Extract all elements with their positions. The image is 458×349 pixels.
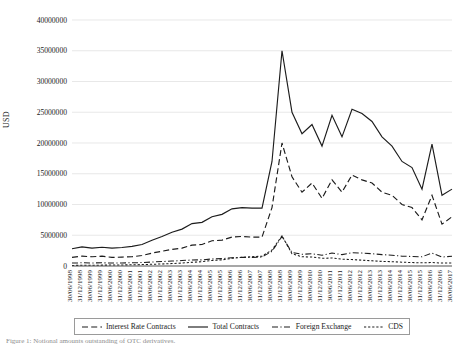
x-tick-label: 30/06/2005 xyxy=(206,270,214,302)
x-tick-label: 30/06/2016 xyxy=(426,270,434,302)
x-tick-label: 31/12/2013 xyxy=(376,270,384,302)
legend-label: CDS xyxy=(388,322,403,331)
x-tick-label: 30/06/2009 xyxy=(286,270,294,302)
x-tick-label: 31/12/2009 xyxy=(296,270,304,302)
x-tick-label: 31/12/2002 xyxy=(156,270,164,302)
chart-legend: Interest Rate ContractsTotal ContractsFo… xyxy=(74,318,410,335)
chart-plot-area: 0500000010000000150000002000000025000000… xyxy=(0,0,458,349)
x-tick-label: 31/12/2006 xyxy=(236,270,244,302)
gridlines-group xyxy=(72,20,452,266)
y-tick-label: 20000000 xyxy=(37,139,68,148)
x-tick-label: 30/06/1998 xyxy=(66,270,74,302)
figure-container: USD 050000001000000015000000200000002500… xyxy=(0,0,458,349)
x-tick-label: 31/12/2015 xyxy=(416,270,424,302)
x-tick-label: 31/12/2012 xyxy=(356,270,364,302)
y-tick-label: 15000000 xyxy=(37,169,68,178)
series-line-total-contracts xyxy=(72,51,452,249)
x-tick-label: 31/12/2003 xyxy=(176,270,184,302)
y-tick-label: 40000000 xyxy=(37,16,68,25)
x-tick-label: 30/06/2002 xyxy=(146,270,154,302)
x-tick-label: 31/12/2011 xyxy=(336,270,344,302)
x-tick-label: 31/12/2000 xyxy=(116,270,124,302)
legend-item[interactable]: Total Contracts xyxy=(187,322,259,331)
line-chart-svg: 0500000010000000150000002000000025000000… xyxy=(0,0,458,349)
x-tick-label: 30/06/2017 xyxy=(446,270,454,302)
x-tick-label: 30/06/2007 xyxy=(246,270,254,302)
y-tick-label: 35000000 xyxy=(37,46,68,55)
y-tick-label: 0 xyxy=(63,262,67,271)
x-tick-label: 31/12/2016 xyxy=(436,270,444,302)
x-tick-label: 30/06/2001 xyxy=(126,270,134,302)
series-line-cds xyxy=(72,236,452,266)
legend-label: Interest Rate Contracts xyxy=(106,322,176,331)
y-tick-label: 5000000 xyxy=(40,231,67,240)
y-tick-labels-group: 0500000010000000150000002000000025000000… xyxy=(37,16,68,271)
x-tick-label: 30/06/2004 xyxy=(186,270,194,302)
y-tick-label: 30000000 xyxy=(37,77,68,86)
x-tick-label: 30/06/2015 xyxy=(406,270,414,302)
legend-label: Total Contracts xyxy=(212,322,259,331)
dotted-line-icon xyxy=(363,323,385,331)
x-tick-label: 31/12/2001 xyxy=(136,270,144,302)
legend-item[interactable]: CDS xyxy=(363,322,403,331)
x-tick-label: 30/06/2003 xyxy=(166,270,174,302)
x-tick-label: 31/12/2004 xyxy=(196,270,204,302)
legend-label: Foreign Exchange xyxy=(296,322,351,331)
x-tick-label: 31/12/2008 xyxy=(276,270,284,302)
dashed-line-icon xyxy=(81,323,103,331)
x-tick-label: 31/12/2010 xyxy=(316,270,324,302)
y-tick-label: 10000000 xyxy=(37,200,68,209)
series-line-foreign-exchange xyxy=(72,236,452,263)
x-tick-label: 31/12/1998 xyxy=(76,270,84,302)
legend-item[interactable]: Interest Rate Contracts xyxy=(81,322,176,331)
x-tick-label: 30/06/2008 xyxy=(266,270,274,302)
legend-item[interactable]: Foreign Exchange xyxy=(271,322,351,331)
x-tick-label: 30/06/2013 xyxy=(366,270,374,302)
x-tick-label: 31/12/1999 xyxy=(96,270,104,302)
solid-line-icon xyxy=(187,323,209,331)
x-tick-label: 30/06/2010 xyxy=(306,270,314,302)
y-tick-label: 25000000 xyxy=(37,108,68,117)
x-tick-label: 30/06/2014 xyxy=(386,270,394,302)
x-tick-label: 31/12/2007 xyxy=(256,270,264,302)
x-tick-label: 30/06/2012 xyxy=(346,270,354,302)
x-tick-label: 31/12/2014 xyxy=(396,270,404,302)
dash-dot-line-icon xyxy=(271,323,293,331)
series-lines-group xyxy=(72,51,452,266)
x-tick-label: 31/12/2005 xyxy=(216,270,224,302)
x-tick-labels-group: 30/06/199831/12/199830/06/199931/12/1999… xyxy=(66,270,454,302)
series-line-interest-rate-contracts xyxy=(72,143,452,257)
x-tick-label: 30/06/1999 xyxy=(86,270,94,302)
figure-caption: Figure 1: Notional amounts outstanding o… xyxy=(6,337,446,345)
x-tick-label: 30/06/2006 xyxy=(226,270,234,302)
x-tick-label: 30/06/2000 xyxy=(106,270,114,302)
x-tick-label: 30/06/2011 xyxy=(326,270,334,302)
